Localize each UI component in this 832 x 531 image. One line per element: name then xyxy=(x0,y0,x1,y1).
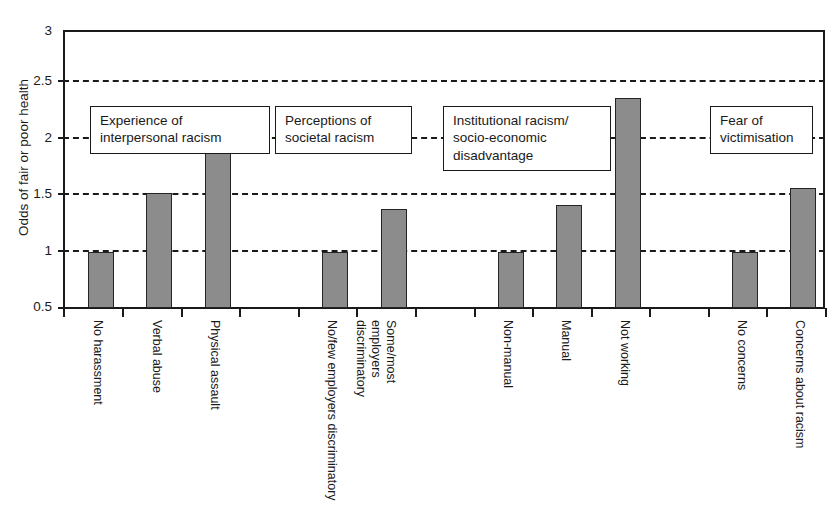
annotation-line-1: Fear of xyxy=(720,112,803,129)
gridline-1 xyxy=(63,250,825,252)
x-tick-0 xyxy=(63,308,65,317)
annotation-line-2: socio-economic xyxy=(453,129,601,146)
category-label-manual: Manual xyxy=(558,320,573,361)
y-tick-label-0.5: 0.5 xyxy=(18,300,52,314)
annotation-box-perceptions-of-societal-racism: Perceptions of societal racism xyxy=(275,106,412,154)
annotation-box-institutional-racism-socio-economic-disadvantage: Institutional racism/ socio-economic dis… xyxy=(443,106,611,171)
y-tick-label-2: 2 xyxy=(18,131,52,145)
category-label-verbal-abuse: Verbal abuse xyxy=(149,320,164,393)
annotation-line-1: Institutional racism/ xyxy=(453,112,601,129)
y-tick-label-1.5: 1.5 xyxy=(18,187,52,201)
bar-no-harassment xyxy=(88,252,114,308)
bar-manual xyxy=(556,205,582,308)
bar-no-concerns xyxy=(732,252,758,308)
category-label-no-harassment: No harassment xyxy=(90,320,105,405)
x-tick-6 xyxy=(415,308,417,317)
x-tick-3 xyxy=(239,308,241,317)
annotation-line-2: victimisation xyxy=(720,129,803,146)
annotation-line-2: societal racism xyxy=(285,129,402,146)
x-tick-5 xyxy=(356,308,358,317)
category-label-no-few-employers-discriminatory: No/few employers discriminatory xyxy=(324,320,339,501)
bar-not-working xyxy=(615,98,641,308)
bar-non-manual xyxy=(498,252,524,308)
cut-off-caption xyxy=(52,0,812,4)
x-tick-2 xyxy=(181,308,183,317)
bar-concerns-about-racism xyxy=(790,188,816,308)
gridline-2.5 xyxy=(63,80,825,82)
x-tick-11 xyxy=(708,308,710,317)
annotation-line-2: interpersonal racism xyxy=(100,129,260,146)
x-tick-9 xyxy=(591,308,593,317)
annotation-line-1: Experience of xyxy=(100,112,260,129)
bar-no-few-employers-discriminatory xyxy=(322,252,348,308)
bar-verbal-abuse xyxy=(146,193,172,308)
category-label-no-concerns: No concerns xyxy=(734,320,749,390)
annotation-box-experience-of-interpersonal-racism: Experience of interpersonal racism xyxy=(90,106,270,154)
bar-some-most-employers-discriminatory xyxy=(381,209,407,308)
category-label-concerns-about-racism: Concerns about racism xyxy=(792,320,807,449)
bar-physical-assault xyxy=(205,133,231,308)
y-tick-label-3: 3 xyxy=(18,24,52,38)
x-tick-4 xyxy=(298,308,300,317)
x-axis-baseline xyxy=(63,307,825,309)
x-tick-8 xyxy=(532,308,534,317)
category-label-some-most-employers-discriminatory: Some/most employers discriminatory xyxy=(354,320,398,430)
y-tick-label-2.5: 2.5 xyxy=(18,74,52,88)
category-label-physical-assault: Physical assault xyxy=(207,320,222,410)
gridline-1.5 xyxy=(63,193,825,195)
annotation-line-1: Perceptions of xyxy=(285,112,402,129)
x-tick-12 xyxy=(766,308,768,317)
x-tick-10 xyxy=(649,308,651,317)
annotation-box-fear-of-victimisation: Fear of victimisation xyxy=(710,106,813,154)
annotation-line-3: disadvantage xyxy=(453,147,601,164)
x-tick-13 xyxy=(825,308,827,317)
category-label-non-manual: Non-manual xyxy=(500,320,515,388)
category-label-not-working: Not working xyxy=(617,320,632,386)
x-tick-7 xyxy=(474,308,476,317)
y-tick-label-1: 1 xyxy=(18,244,52,258)
x-tick-1 xyxy=(122,308,124,317)
figure-bar-chart-odds-of-fair-or-poor-health: Odds of fair or poor health 3 2.5 2 1.5 … xyxy=(0,0,832,531)
